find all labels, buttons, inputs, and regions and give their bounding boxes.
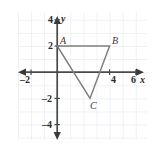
x-tick-label-neg2: –2 <box>20 75 30 85</box>
vertex-label-b: B <box>112 36 118 46</box>
x-tick-label-4: 4 <box>111 75 116 85</box>
y-tick-label-neg2: –2 <box>42 94 52 104</box>
grid-lines <box>18 12 147 140</box>
x-axis-label: x <box>140 75 145 85</box>
vertex-label-a: A <box>60 36 66 46</box>
x-tick-label-6: 6 <box>131 75 136 85</box>
y-axis-label: y <box>61 14 65 24</box>
y-tick-label-neg4: –4 <box>42 120 52 130</box>
y-tick-label-4: 4 <box>48 15 53 25</box>
vertex-label-c: C <box>90 101 97 111</box>
y-tick-label-2: 2 <box>48 41 53 51</box>
coordinate-plane-figure: –2 4 6 4 2 –2 –4 y x A B C <box>0 0 155 153</box>
